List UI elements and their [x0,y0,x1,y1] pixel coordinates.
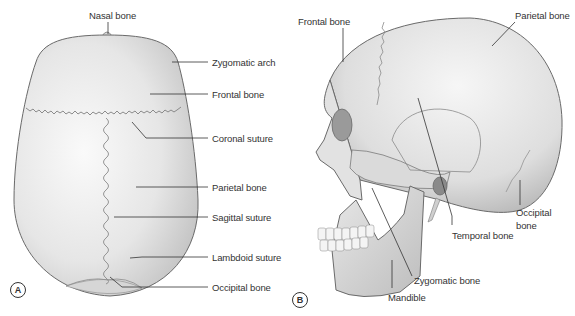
label-coronal-suture: Coronal suture [212,133,273,144]
label-sagittal-suture: Sagittal suture [212,212,271,223]
skull-anatomy-figure: Nasal bone Zygomatic arch Frontal bone C… [0,0,575,316]
label-occipital-bone-b-line2: bone [516,220,537,231]
label-frontal-bone-b: Frontal bone [298,16,350,27]
label-occipital-bone-a: Occipital bone [212,282,271,293]
label-parietal-bone-b: Parietal bone [515,10,570,21]
label-occipital-bone-b-line1: Occipital [516,207,552,218]
label-parietal-bone-a: Parietal bone [212,182,267,193]
label-zygomatic-bone: Zygomatic bone [414,275,480,286]
label-mandible: Mandible [388,292,426,303]
label-nasal-bone: Nasal bone [89,10,136,21]
label-zygomatic-arch: Zygomatic arch [212,57,276,68]
label-lambdoid-suture: Lambdoid suture [212,252,281,263]
skull-illustration [0,0,575,316]
skull-lateral-view [316,18,562,297]
label-frontal-bone-a: Frontal bone [212,89,264,100]
panel-b-tag: B [292,292,308,308]
label-temporal-bone: Temporal bone [452,230,514,241]
panel-a-tag: A [10,282,26,298]
skull-superior-view [14,32,198,296]
